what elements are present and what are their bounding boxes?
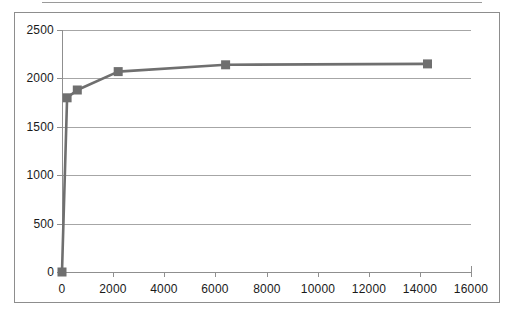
x-axis-tick	[318, 272, 319, 277]
gridline-y	[62, 30, 471, 31]
y-axis-tick	[57, 175, 62, 176]
y-axis-tick	[57, 127, 62, 128]
x-axis-tick	[267, 272, 268, 277]
x-axis-tick	[471, 272, 472, 277]
chart-screenshot: 05001000150020002500 0200040006000800010…	[0, 0, 513, 316]
y-axis-tick	[57, 272, 62, 273]
y-axis-tick-label: 2000	[18, 72, 54, 84]
gridline-y	[62, 224, 471, 225]
x-axis-tick-label: 16000	[441, 283, 501, 295]
gridline-y	[62, 175, 471, 176]
gridline-y	[62, 78, 471, 79]
y-axis-tick	[57, 78, 62, 79]
page-top-rule	[42, 2, 482, 3]
x-axis-tick	[420, 272, 421, 277]
y-axis-line	[62, 30, 63, 273]
y-axis-tick	[57, 30, 62, 31]
x-axis-tick	[369, 272, 370, 277]
x-axis-tick	[113, 272, 114, 277]
y-axis-tick-label: 1000	[18, 169, 54, 181]
y-axis-tick-label: 1500	[18, 121, 54, 133]
y-axis-end-cap	[62, 30, 63, 35]
y-axis-tick-label: 2500	[18, 24, 54, 36]
x-axis-tick	[215, 272, 216, 277]
x-axis-tick	[164, 272, 165, 277]
y-axis-tick-label: 500	[18, 218, 54, 230]
gridline-y	[62, 127, 471, 128]
y-axis-tick-label: 0	[18, 266, 54, 278]
y-axis-tick	[57, 224, 62, 225]
chart-frame	[14, 12, 500, 303]
x-axis-tick-label: 6000	[185, 283, 245, 295]
